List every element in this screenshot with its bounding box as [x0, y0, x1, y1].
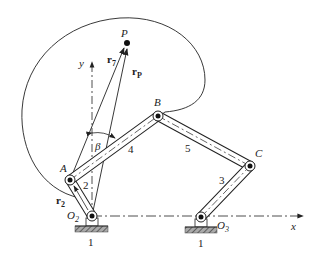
label-link-5: 5 — [185, 143, 191, 154]
label-link-4: 4 — [128, 144, 134, 155]
coupler-body-outline — [22, 18, 205, 198]
joint-C — [245, 161, 255, 171]
label-C: C — [255, 148, 262, 159]
label-x: x — [291, 221, 296, 232]
joint-O2 — [87, 211, 97, 221]
label-rP: rP — [132, 66, 142, 80]
label-beta: β — [95, 141, 100, 152]
label-y: y — [79, 58, 84, 69]
link-3 — [201, 166, 250, 217]
label-link-2: 2 — [83, 180, 89, 191]
linkage-diagram — [0, 0, 326, 262]
label-link-3: 3 — [219, 175, 225, 186]
joint-A — [65, 175, 75, 185]
label-ground-1a: 1 — [88, 237, 94, 248]
beta-angle-arc — [92, 133, 115, 138]
link-5 — [158, 116, 250, 166]
label-A: A — [60, 163, 67, 174]
label-O3: O3 — [217, 220, 229, 234]
label-ground-1b: 1 — [198, 238, 204, 249]
label-r2: r2 — [56, 195, 65, 209]
point-P — [124, 40, 130, 46]
label-r7: r7 — [107, 54, 116, 68]
label-B: B — [154, 97, 161, 108]
joint-O3 — [196, 212, 206, 222]
label-O2: O2 — [67, 210, 79, 224]
joint-B — [153, 111, 163, 121]
label-P: P — [121, 28, 128, 39]
